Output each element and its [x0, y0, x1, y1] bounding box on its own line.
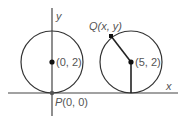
q-point [109, 34, 113, 38]
origin-label: P(0, 0) [55, 96, 88, 108]
right-center-label: (5, 2) [135, 56, 161, 68]
diagram-canvas: y x (0, 2) (5, 2) P(0, 0) Q(x, y) [0, 0, 178, 118]
origin-point [50, 91, 54, 95]
radius-to-q [111, 36, 131, 62]
circle-diagram: y x (0, 2) (5, 2) P(0, 0) Q(x, y) [0, 0, 178, 118]
left-center-label: (0, 2) [56, 56, 82, 68]
x-axis-label: x [165, 80, 172, 92]
origin-label-coords: (0, 0) [62, 96, 88, 108]
q-label: Q(x, y) [89, 20, 122, 32]
y-axis-label: y [55, 10, 63, 22]
q-label-coords: (x, y) [98, 20, 123, 32]
left-center-point [49, 59, 54, 64]
right-center-point [128, 59, 133, 64]
